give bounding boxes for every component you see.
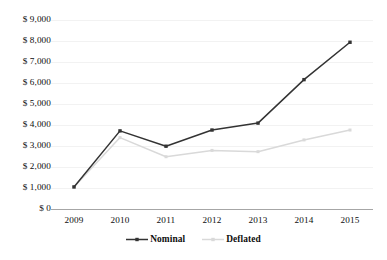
data-point-marker xyxy=(72,185,75,188)
data-point-marker xyxy=(165,155,168,158)
data-point-marker xyxy=(118,129,121,132)
data-point-marker xyxy=(119,136,122,139)
data-point-marker xyxy=(211,149,214,152)
data-point-marker xyxy=(348,41,351,44)
legend-entry-deflated[interactable]: Deflated xyxy=(202,234,261,244)
data-point-marker xyxy=(349,129,352,132)
data-point-marker xyxy=(302,78,305,81)
legend-label: Deflated xyxy=(226,234,261,244)
data-point-marker xyxy=(257,150,260,153)
legend-entry-nominal[interactable]: Nominal xyxy=(126,234,185,244)
line-chart: $ 9,000$ 8,000$ 7,000$ 6,000$ 5,000$ 4,0… xyxy=(0,0,387,260)
chart-legend: NominalDeflated xyxy=(0,234,387,244)
data-point-marker xyxy=(210,128,213,131)
data-point-marker xyxy=(256,121,259,124)
series-line xyxy=(74,130,350,187)
series-nominal xyxy=(72,41,351,189)
legend-swatch-deflated xyxy=(202,235,224,244)
series-plot xyxy=(0,0,387,260)
series-line xyxy=(74,42,350,187)
legend-label: Nominal xyxy=(150,234,185,244)
data-point-marker xyxy=(303,138,306,141)
data-point-marker xyxy=(164,145,167,148)
legend-swatch-nominal xyxy=(126,235,148,244)
